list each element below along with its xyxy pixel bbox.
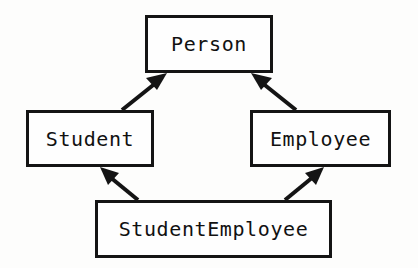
edge-employee-to-person[interactable] bbox=[251, 73, 296, 110]
edge-studentemployee-to-employee-line bbox=[285, 177, 313, 200]
class-label-employee: Employee bbox=[270, 127, 371, 151]
class-box-employee[interactable]: Employee bbox=[250, 110, 391, 167]
edge-employee-to-person-line bbox=[261, 82, 296, 110]
class-label-person: Person bbox=[171, 32, 247, 56]
edge-student-to-person-line bbox=[122, 82, 157, 110]
class-diagram-canvas: Person Student Employee StudentEmployee bbox=[0, 0, 418, 268]
class-box-studentemployee[interactable]: StudentEmployee bbox=[95, 200, 332, 258]
edge-student-to-person[interactable] bbox=[122, 73, 167, 110]
edge-studentemployee-to-student[interactable] bbox=[100, 167, 138, 200]
class-label-student: Student bbox=[46, 127, 135, 151]
class-box-person[interactable]: Person bbox=[145, 15, 273, 73]
edge-studentemployee-to-employee[interactable] bbox=[285, 167, 324, 200]
class-box-student[interactable]: Student bbox=[26, 110, 154, 167]
class-label-studentemployee: StudentEmployee bbox=[119, 217, 309, 241]
edge-studentemployee-to-student-line bbox=[110, 177, 138, 200]
